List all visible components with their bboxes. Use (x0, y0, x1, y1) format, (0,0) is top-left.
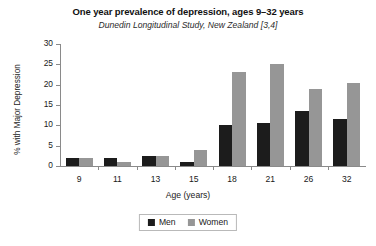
legend-label-men: Men (159, 217, 176, 227)
bar-men-15 (180, 162, 194, 166)
x-tick-mark (290, 166, 291, 170)
y-tick-label: 25 (27, 58, 53, 68)
x-tick-label: 32 (342, 174, 352, 184)
bar-men-32 (333, 119, 347, 166)
y-tick-mark (56, 85, 60, 86)
bar-women-9 (79, 158, 93, 166)
chart-subtitle: Dunedin Longitudinal Study, New Zealand … (0, 19, 376, 31)
legend-item-women: Women (188, 217, 228, 227)
x-tick-mark (328, 166, 329, 170)
x-tick-mark (98, 166, 99, 170)
y-tick-label: 15 (27, 99, 53, 109)
legend-swatch-men (148, 219, 155, 226)
x-tick-label: 26 (304, 174, 314, 184)
x-tick-mark (251, 166, 252, 170)
x-tick-label: 11 (113, 174, 122, 184)
x-tick-mark (137, 166, 138, 170)
y-tick-label: 0 (27, 160, 53, 170)
chart-title: One year prevalence of depression, ages … (0, 6, 376, 18)
y-tick-label: 5 (27, 140, 53, 150)
bar-men-13 (142, 156, 156, 166)
bar-women-11 (117, 162, 131, 166)
y-tick-mark (56, 44, 60, 45)
chart-legend: MenWomen (139, 214, 237, 231)
bar-women-21 (270, 64, 284, 166)
y-tick-mark (56, 166, 60, 167)
legend-label-women: Women (199, 217, 228, 227)
bar-men-21 (257, 123, 271, 166)
x-tick-label: 21 (266, 174, 276, 184)
y-axis-label: % with Major Depression (13, 45, 22, 175)
y-tick-mark (56, 125, 60, 126)
y-tick-mark (56, 105, 60, 106)
x-tick-label: 9 (77, 174, 82, 184)
legend-item-men: Men (148, 217, 176, 227)
bar-men-18 (219, 125, 233, 166)
bar-men-26 (295, 111, 309, 166)
bar-women-15 (194, 150, 208, 166)
x-tick-label: 18 (227, 174, 237, 184)
chart-figure: One year prevalence of depression, ages … (0, 0, 376, 246)
x-tick-mark (175, 166, 176, 170)
y-tick-mark (56, 64, 60, 65)
x-axis-label: Age (years) (0, 190, 376, 200)
bar-men-11 (104, 158, 118, 166)
legend-swatch-women (188, 219, 195, 226)
y-tick-mark (56, 146, 60, 147)
x-tick-label: 13 (151, 174, 161, 184)
bar-women-32 (347, 83, 361, 166)
x-tick-label: 15 (189, 174, 199, 184)
title-block: One year prevalence of depression, ages … (0, 6, 376, 31)
bar-women-18 (232, 72, 246, 166)
y-tick-label: 20 (27, 79, 53, 89)
bar-men-9 (66, 158, 80, 166)
y-tick-label: 30 (27, 38, 53, 48)
bar-women-13 (156, 156, 170, 166)
y-axis-line (60, 44, 61, 166)
plot-area: 051015202530 911131518212632 (60, 44, 366, 166)
x-tick-mark (213, 166, 214, 170)
bar-women-26 (309, 89, 323, 166)
y-tick-label: 10 (27, 119, 53, 129)
